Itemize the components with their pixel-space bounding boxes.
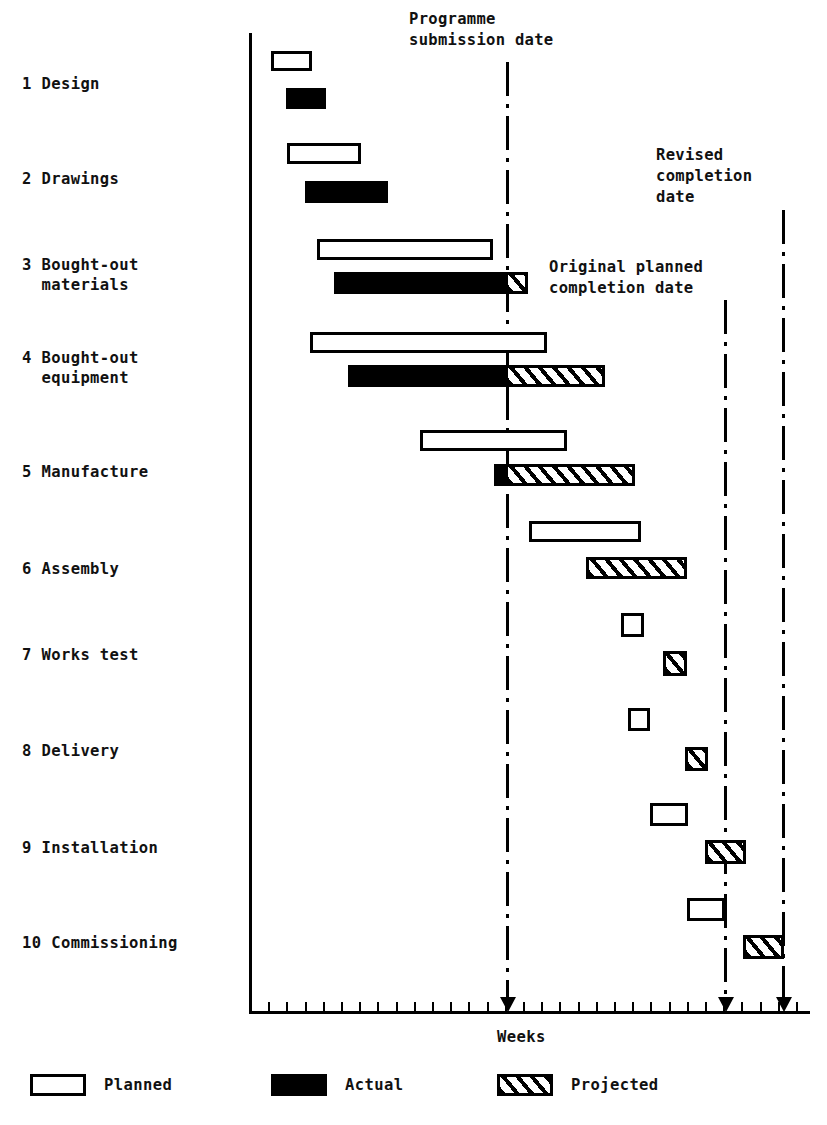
bar-planned-task-5	[420, 430, 567, 451]
bar-planned-task-2	[287, 143, 361, 164]
x-axis-tick	[341, 1002, 343, 1013]
task-label-8: 8 Delivery	[22, 741, 119, 761]
x-axis-tick	[796, 1002, 798, 1013]
x-axis-tick	[705, 1002, 707, 1013]
x-axis-tick	[286, 1002, 288, 1013]
bar-projected-task-9	[705, 840, 746, 864]
bar-planned-task-4	[310, 332, 547, 353]
task-label-1: 1 Design	[22, 74, 100, 94]
task-label-10: 10 Commissioning	[22, 933, 178, 953]
y-axis-line	[249, 33, 252, 1013]
task-label-7: 7 Works test	[22, 645, 139, 665]
legend-item-actual: Actual	[271, 1074, 403, 1096]
legend-label-projected: Projected	[571, 1076, 659, 1094]
bar-planned-task-8	[628, 708, 650, 731]
arrow-head-programme-submission-date	[500, 997, 516, 1012]
x-axis-tick	[541, 1002, 543, 1013]
x-axis-tick	[559, 1002, 561, 1013]
bar-projected-task-6	[586, 557, 687, 579]
bar-actual-task-2	[305, 181, 388, 203]
bar-planned-task-9	[650, 803, 688, 826]
x-axis-tick	[432, 1002, 434, 1013]
x-axis-tick	[487, 1002, 489, 1013]
legend-item-planned: Planned	[30, 1074, 172, 1096]
bar-projected-task-3	[505, 272, 528, 294]
task-label-6: 6 Assembly	[22, 559, 119, 579]
task-label-9: 9 Installation	[22, 838, 158, 858]
bar-projected-task-5	[505, 464, 635, 486]
reference-line-revised-completion-date	[782, 210, 785, 1001]
bar-actual-task-1	[286, 88, 326, 109]
bar-projected-task-4	[505, 365, 605, 387]
x-axis-tick	[632, 1002, 634, 1013]
x-axis-tick	[468, 1002, 470, 1013]
x-axis-tick	[396, 1002, 398, 1013]
task-label-5: 5 Manufacture	[22, 462, 149, 482]
x-axis-tick	[614, 1002, 616, 1013]
legend-label-actual: Actual	[345, 1076, 403, 1094]
legend-swatch-actual-icon	[271, 1074, 327, 1096]
arrow-head-original-planned-completion-date	[718, 997, 734, 1012]
bar-actual-task-4	[348, 365, 506, 387]
legend-swatch-planned-icon	[30, 1074, 86, 1096]
bar-planned-task-7	[621, 613, 644, 637]
x-axis-tick	[687, 1002, 689, 1013]
x-axis-tick	[377, 1002, 379, 1013]
annotation-original-planned-completion-date: Original planned completion date	[549, 257, 703, 299]
x-axis-tick	[450, 1002, 452, 1013]
legend-swatch-projected-icon	[497, 1074, 553, 1096]
x-axis-tick	[414, 1002, 416, 1013]
bar-planned-task-10	[687, 898, 725, 921]
x-axis-tick	[578, 1002, 580, 1013]
bar-projected-task-7	[663, 651, 687, 676]
x-axis-tick	[650, 1002, 652, 1013]
x-axis-tick	[268, 1002, 270, 1013]
bar-projected-task-10	[743, 935, 784, 959]
x-axis-tick	[669, 1002, 671, 1013]
x-axis-tick	[359, 1002, 361, 1013]
reference-line-programme-submission-date	[506, 62, 509, 1001]
bar-actual-task-3	[334, 272, 506, 294]
legend-item-projected: Projected	[497, 1074, 659, 1096]
x-axis-tick	[305, 1002, 307, 1013]
arrow-head-revised-completion-date	[776, 997, 792, 1012]
bar-planned-task-3	[317, 239, 493, 260]
bar-projected-task-8	[685, 747, 708, 771]
x-axis-tick	[250, 1002, 252, 1013]
task-label-2: 2 Drawings	[22, 169, 119, 189]
bar-planned-task-6	[529, 521, 641, 542]
annotation-programme-submission-date: Programme submission date	[409, 9, 553, 51]
annotation-revised-completion-date: Revised completion date	[656, 145, 752, 208]
x-axis-tick	[323, 1002, 325, 1013]
bar-planned-task-1	[271, 51, 312, 71]
reference-line-original-planned-completion-date	[724, 300, 727, 1001]
x-axis-tick	[760, 1002, 762, 1013]
x-axis-tick	[523, 1002, 525, 1013]
x-axis-caption: Weeks	[497, 1028, 546, 1046]
legend-label-planned: Planned	[104, 1076, 172, 1094]
task-label-3: 3 Bought-out materials	[22, 255, 139, 295]
x-axis-tick	[596, 1002, 598, 1013]
x-axis-tick	[741, 1002, 743, 1013]
task-label-4: 4 Bought-out equipment	[22, 348, 139, 388]
gantt-chart-figure: 1 Design2 Drawings3 Bought-out materials…	[0, 0, 827, 1125]
